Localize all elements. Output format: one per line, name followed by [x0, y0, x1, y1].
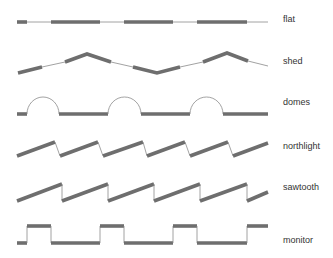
roof-types-diagram [0, 0, 333, 258]
northlight-roof-profile [17, 142, 268, 156]
label-flat: flat [283, 14, 295, 24]
sawtooth-roof-profile [17, 184, 268, 201]
domes-roof-profile [17, 97, 268, 114]
monitor-roof-profile [17, 226, 268, 243]
shed-roof-profile [18, 53, 268, 73]
label-monitor: monitor [283, 235, 313, 245]
label-shed: shed [283, 56, 303, 66]
label-northlight: northlight [283, 141, 320, 151]
label-domes: domes [283, 97, 310, 107]
label-sawtooth: sawtooth [283, 182, 319, 192]
